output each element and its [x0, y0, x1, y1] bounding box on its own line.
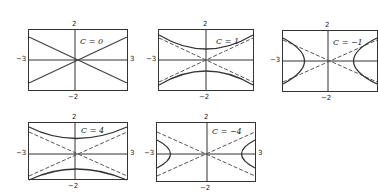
c-value-label: C = −4 [212, 127, 242, 136]
x-min-label: −3 [146, 55, 156, 63]
c-value-label: C = −1 [333, 38, 363, 47]
y-max-label: 2 [204, 113, 208, 121]
x-max-label: 3 [258, 149, 262, 157]
y-min-label: −2 [68, 182, 78, 190]
c-value-label: C = 1 [216, 37, 239, 46]
y-max-label: 2 [72, 113, 76, 121]
y-min-label: −2 [68, 93, 78, 101]
plot-c-1: 2 −2 −3 C = 1 [158, 29, 254, 91]
x-max-label: 3 [130, 149, 134, 157]
plot-c-0: 2 −2 −3 3 C = 0 [28, 29, 128, 91]
y-min-label: −2 [200, 184, 210, 192]
plot-c-neg-1-canvas [282, 30, 378, 92]
y-max-label: 2 [325, 21, 329, 29]
y-max-label: 2 [72, 20, 76, 28]
x-min-label: −3 [270, 56, 280, 64]
c-value-label: C = 4 [81, 126, 104, 135]
y-min-label: −2 [321, 94, 331, 102]
plot-c-4-canvas [28, 122, 128, 180]
plot-c-neg-4: 2 −2 −3 3 C = −4 [156, 122, 256, 182]
plot-c-0-canvas [28, 29, 128, 91]
plot-c-neg-1: 2 −2 −3 C = −1 [282, 30, 378, 92]
c-value-label: C = 0 [80, 37, 103, 46]
x-min-label: −3 [16, 55, 26, 63]
y-min-label: −2 [199, 93, 209, 101]
plot-c-4: 2 −2 −3 3 C = 4 [28, 122, 128, 180]
plot-c-1-canvas [158, 29, 254, 91]
x-min-label: −3 [16, 149, 26, 157]
x-max-label: 3 [130, 55, 134, 63]
x-min-label: −3 [144, 149, 154, 157]
y-max-label: 2 [203, 20, 207, 28]
